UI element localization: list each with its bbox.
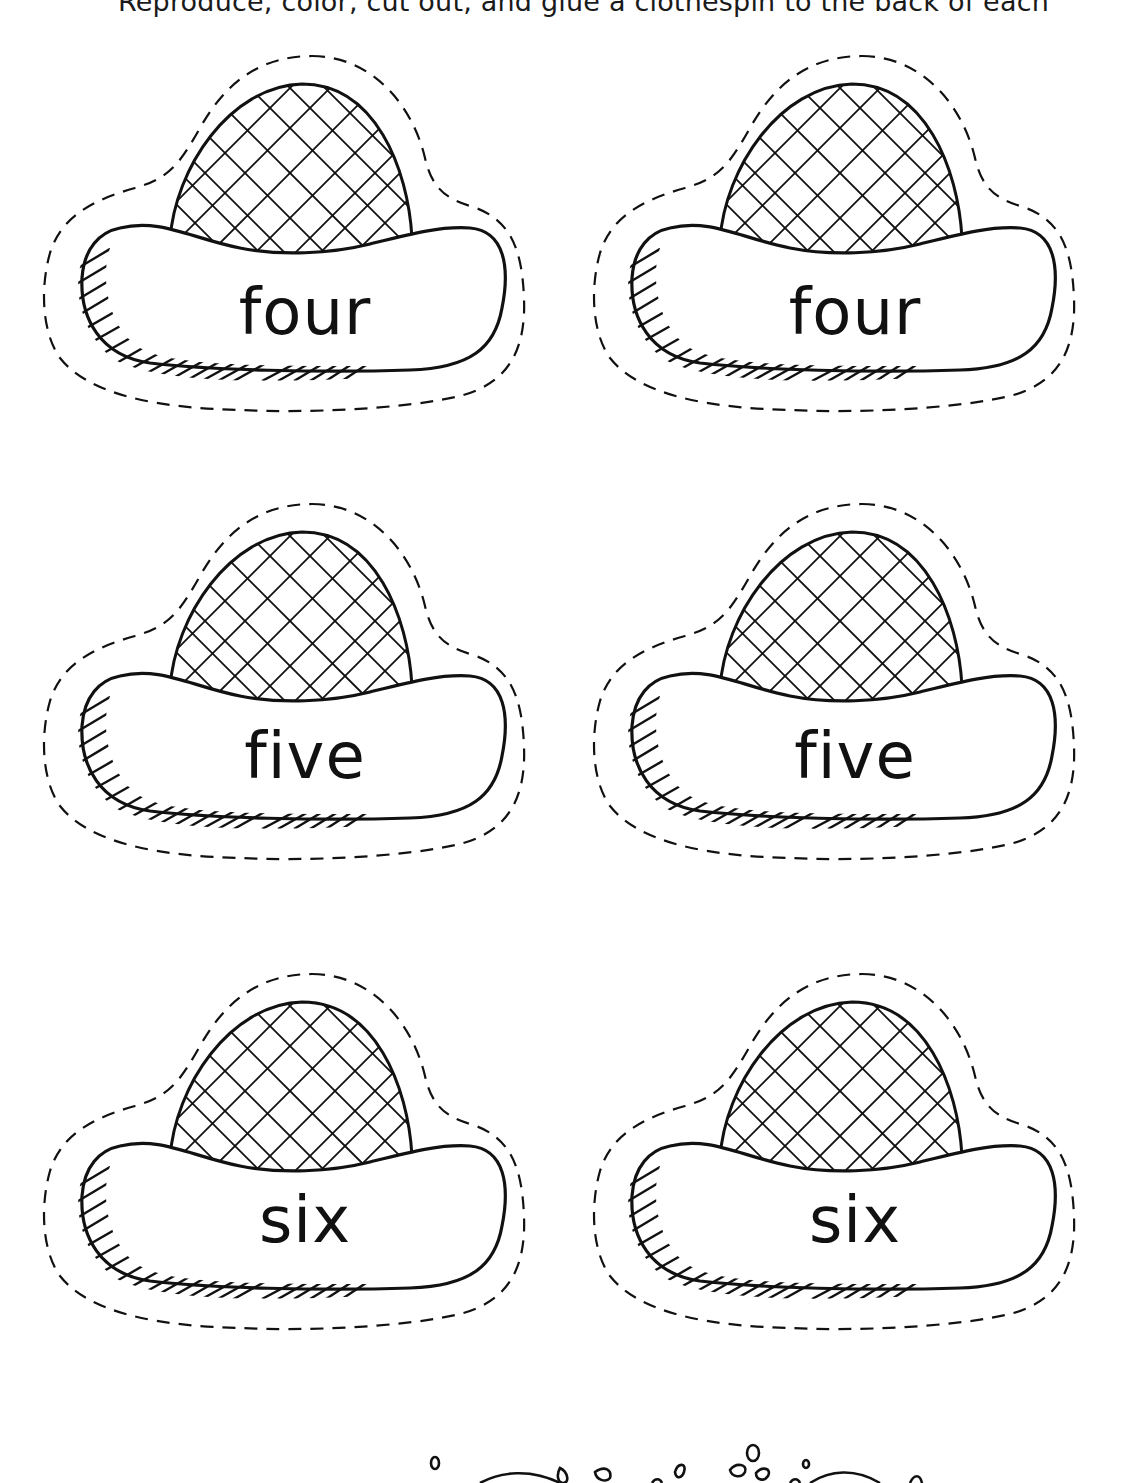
word-card-four-left: four [40, 48, 540, 418]
word-card-four-right: four [590, 48, 1090, 418]
word-card-six-left: six [40, 966, 540, 1336]
card-word: five [650, 724, 1060, 788]
word-card-five-right: five [590, 496, 1090, 866]
card-word: five [100, 724, 510, 788]
card-word: four [650, 280, 1060, 344]
word-card-five-left: five [40, 496, 540, 866]
sombrero-hat-icon [40, 48, 540, 418]
sombrero-hat-icon [40, 966, 540, 1336]
splash-border-icon [400, 1400, 1125, 1483]
sombrero-hat-icon [590, 48, 1090, 418]
sombrero-hat-icon [40, 496, 540, 866]
card-word: six [650, 1188, 1060, 1252]
word-card-six-right: six [590, 966, 1090, 1336]
card-word: four [100, 280, 510, 344]
instructions-text: Reproduce, color, cut out, and glue a cl… [118, 0, 1049, 17]
card-word: six [100, 1188, 510, 1252]
sombrero-hat-icon [590, 496, 1090, 866]
sombrero-hat-icon [590, 966, 1090, 1336]
